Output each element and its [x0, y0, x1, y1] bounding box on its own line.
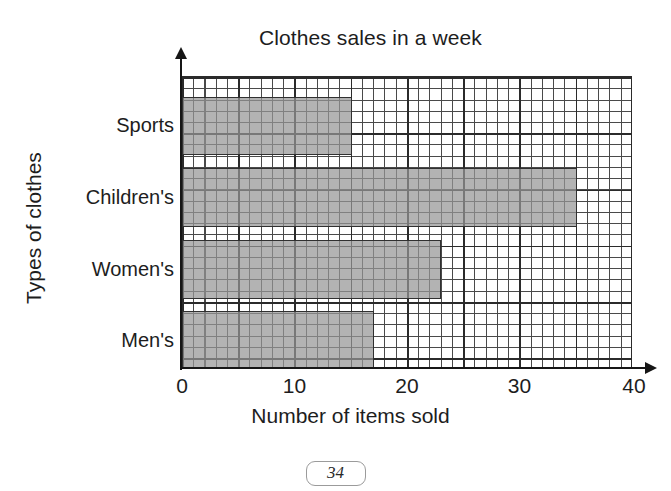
- x-axis-title: Number of items sold: [0, 404, 671, 428]
- bar-sports: [182, 97, 352, 155]
- y-category-label-sports: Sports: [116, 114, 174, 137]
- y-axis-arrow-icon: [175, 47, 187, 59]
- y-axis-line: [180, 56, 182, 370]
- x-tick-label-40: 40: [622, 374, 645, 398]
- y-axis-title: Types of clothes: [22, 108, 46, 348]
- chart-title: Clothes sales in a week: [0, 26, 671, 50]
- x-tick-label-30: 30: [508, 374, 531, 398]
- plot-area: [182, 76, 632, 368]
- y-category-label-mens: Men's: [121, 329, 174, 352]
- y-category-label-childrens: Children's: [86, 186, 174, 209]
- bar-childrens: [182, 168, 577, 227]
- page-number-badge: 34: [306, 461, 366, 486]
- x-tick-label-0: 0: [176, 374, 188, 398]
- bar-chart-figure: Clothes sales in a week 0 10 20 30 40 Sp…: [0, 0, 671, 491]
- x-tick-label-20: 20: [395, 374, 418, 398]
- y-category-label-womens: Women's: [92, 258, 174, 281]
- x-axis-arrow-icon: [645, 362, 657, 374]
- bar-womens: [182, 240, 441, 299]
- bar-mens: [182, 311, 374, 368]
- x-axis-line: [180, 367, 648, 369]
- x-tick-label-10: 10: [283, 374, 306, 398]
